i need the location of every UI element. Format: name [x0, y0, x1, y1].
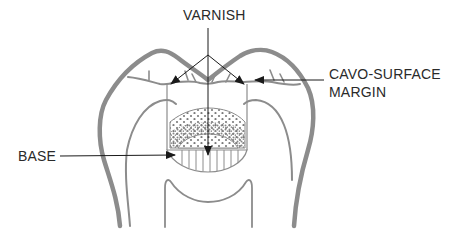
dentin-left-line: [126, 100, 176, 226]
cavo-surface-label: CAVO-SURFACE: [329, 66, 441, 82]
dentin-right-line: [244, 100, 292, 180]
varnish-label: VARNISH: [183, 7, 246, 23]
tooth-diagram: [0, 0, 452, 242]
base-layer: [167, 150, 247, 172]
cavo-surface-margin-label: MARGIN: [329, 84, 386, 100]
base-pointer: [60, 155, 175, 156]
pulp-chamber: [165, 180, 252, 227]
base-label: BASE: [18, 148, 56, 164]
